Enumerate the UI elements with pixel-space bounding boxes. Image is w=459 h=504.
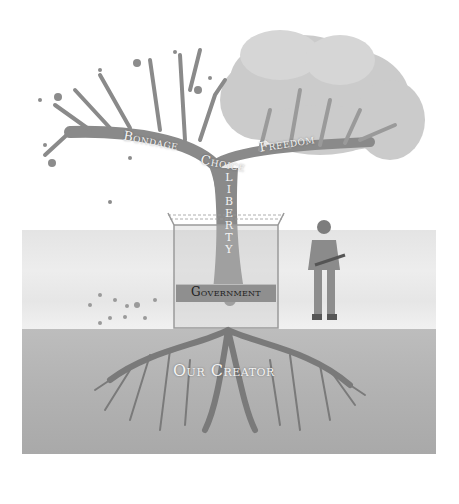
fallen-leaves <box>88 293 157 325</box>
liberty-letter: Y <box>225 244 232 256</box>
label-our-creator: Our Creator <box>173 361 275 380</box>
label-liberty: L I B E R T Y <box>222 172 236 256</box>
label-government: Government <box>176 284 276 301</box>
soldier <box>308 220 345 320</box>
tree-diagram: Bondage Choice Freedom L I B E R T Y Gov… <box>0 0 459 504</box>
roots <box>95 330 365 430</box>
